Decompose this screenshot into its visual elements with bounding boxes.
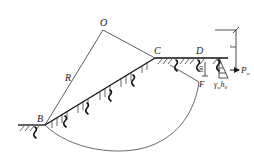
hatching-crest — [158, 59, 217, 64]
label-D: D — [195, 45, 204, 56]
slip-circle-arc — [45, 82, 199, 151]
water-pressure-triangle — [219, 58, 228, 78]
label-Pw: Pw — [240, 65, 251, 76]
label-O: O — [100, 17, 107, 28]
hw-label: hw — [230, 44, 237, 49]
label-gamma-w-h0: γwh0 — [214, 80, 228, 90]
h-sub: 0 — [225, 85, 228, 90]
h0-label: h0 — [198, 66, 204, 72]
label-R: R — [64, 72, 71, 83]
label-F: F — [198, 79, 205, 89]
vegetation-symbols — [34, 60, 220, 138]
label-C: C — [154, 45, 161, 56]
slope-stability-diagram: h0 hw O R B C D F Pw γwh0 — [0, 0, 254, 156]
label-B: B — [37, 113, 43, 124]
radius-lines — [45, 30, 155, 125]
pw-sub: w — [247, 71, 251, 76]
